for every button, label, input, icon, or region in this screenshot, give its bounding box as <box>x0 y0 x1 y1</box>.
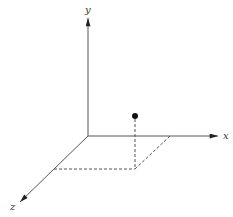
z-axis-label: z <box>9 201 16 212</box>
coordinate-diagram: y x z <box>0 0 233 217</box>
y-axis-label: y <box>84 4 91 15</box>
x-axis-label: x <box>223 130 229 141</box>
projection-x-dashed <box>135 136 170 169</box>
point-marker <box>132 113 138 119</box>
